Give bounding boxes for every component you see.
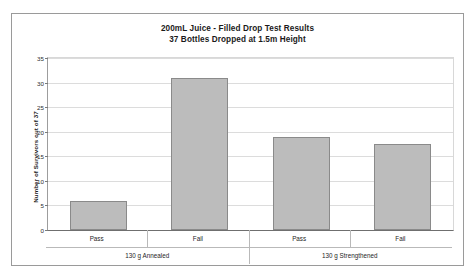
y-tick-mark <box>45 205 48 206</box>
chart-title-block: 200mL Juice - Filled Drop Test Results 3… <box>12 23 463 45</box>
y-tick-label: 5 <box>41 202 44 209</box>
gridline <box>48 58 453 59</box>
y-tick-label: 35 <box>37 55 44 62</box>
y-tick-label: 30 <box>37 79 44 86</box>
group-label: 130 g Annealed <box>46 248 249 264</box>
bar <box>70 201 127 230</box>
y-tick-label: 25 <box>37 104 44 111</box>
category-label: Fail <box>350 230 451 247</box>
y-tick-label: 10 <box>37 177 44 184</box>
gridline <box>48 107 453 108</box>
plot-area: 35302520151050 <box>47 57 454 231</box>
y-tick-mark <box>45 83 48 84</box>
category-separator <box>350 230 351 247</box>
chart-subtitle: 37 Bottles Dropped at 1.5m Height <box>12 34 463 45</box>
group-axis-row: 130 g Annealed130 g Strengthened <box>46 247 452 264</box>
bar <box>273 137 330 230</box>
group-separator <box>249 248 250 264</box>
chart-frame: 200mL Juice - Filled Drop Test Results 3… <box>11 13 464 266</box>
gridline <box>48 83 453 84</box>
y-tick-mark <box>45 58 48 59</box>
category-label: Fail <box>147 230 248 247</box>
bar <box>374 144 431 230</box>
category-axis-row: PassFailPassFail <box>46 230 452 247</box>
chart-title: 200mL Juice - Filled Drop Test Results <box>12 23 463 34</box>
y-tick-label: 20 <box>37 128 44 135</box>
y-tick-label: 0 <box>41 227 44 234</box>
bar <box>171 78 228 230</box>
category-separator <box>147 230 148 247</box>
category-label: Pass <box>249 230 350 247</box>
gridline <box>48 132 453 133</box>
category-separator <box>249 230 250 247</box>
group-label: 130 g Strengthened <box>249 248 452 264</box>
category-label: Pass <box>46 230 147 247</box>
y-tick-label: 15 <box>37 153 44 160</box>
y-tick-mark <box>45 132 48 133</box>
y-tick-mark <box>45 107 48 108</box>
y-tick-mark <box>45 156 48 157</box>
y-tick-mark <box>45 181 48 182</box>
